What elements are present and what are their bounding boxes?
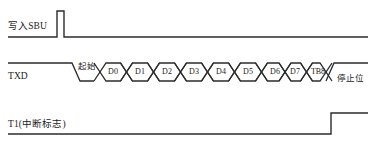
signal-label-txd: TXD (8, 72, 28, 82)
data-bit-label: D3 (189, 68, 199, 76)
serial-timing-diagram: 写入SBU TXD T1(中断标志) 起始 停止位 D0D1D2D3D4D5D6… (0, 0, 372, 149)
data-bit-label: D6 (270, 68, 280, 76)
data-bit-label: D0 (108, 68, 118, 76)
signal-label-ti-interrupt-flag: T1(中断标志) (8, 120, 66, 130)
data-bit-label: TB8 (311, 68, 325, 76)
data-bit-label: D4 (216, 68, 226, 76)
signal-label-write-sbu: 写入SBU (8, 22, 47, 32)
data-bit-label: D5 (243, 68, 253, 76)
data-bit-label: D2 (162, 68, 172, 76)
data-bit-label: D7 (290, 68, 300, 76)
start-bit-label: 起始 (78, 62, 96, 71)
stop-bit-label: 停止位 (337, 74, 364, 83)
sbu-pulse-trace (8, 11, 368, 37)
sbu-waveform (8, 11, 368, 37)
data-bit-label: D1 (135, 68, 145, 76)
